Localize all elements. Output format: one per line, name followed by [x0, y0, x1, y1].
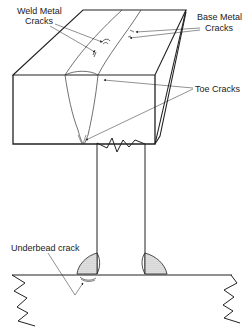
leader-lines-top — [50, 24, 200, 140]
toe-cracks-label: Toe Cracks — [195, 84, 241, 94]
weld-metal-cracks-label-line2: Cracks — [25, 16, 54, 26]
vertical-plate — [97, 138, 145, 274]
weld-metal-cracks-label: Weld Metal — [17, 6, 62, 16]
fillet-welds — [77, 253, 167, 274]
base-metal-crack-marks — [128, 30, 134, 37]
plate-block — [13, 10, 186, 144]
base-plate — [12, 275, 240, 326]
weld-bead — [65, 10, 141, 144]
underbead-crack-label: Underbead crack — [11, 243, 80, 253]
weld-cracks-diagram: Weld Metal Cracks Base Metal Cracks Toe … — [0, 0, 252, 335]
underbead-crack-mark — [80, 277, 96, 281]
base-metal-cracks-label: Base Metal — [197, 12, 242, 22]
base-metal-cracks-label-line2: Cracks — [205, 23, 234, 33]
